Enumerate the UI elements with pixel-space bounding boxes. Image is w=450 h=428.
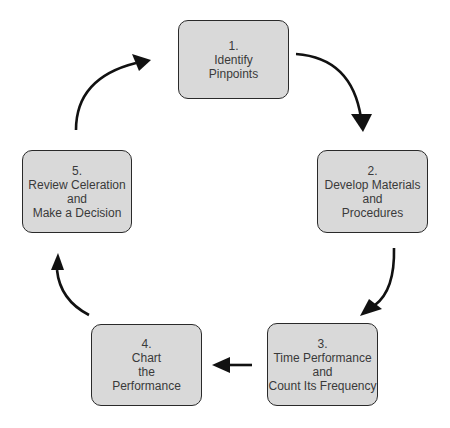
arrow-1-to-2 — [296, 54, 361, 118]
step-4-line-2: the — [138, 365, 155, 379]
step-5-number: 5. — [72, 164, 82, 178]
step-3-line-1: Time Performance — [273, 351, 371, 365]
step-1-line-2: Pinpoints — [209, 67, 258, 81]
step-5-line-1: Review Celeration — [28, 178, 125, 192]
step-2-line-2: and — [362, 192, 382, 206]
step-3-line-3: Count Its Frequency — [268, 379, 376, 393]
step-3-number: 3. — [317, 337, 327, 351]
step-1-line-1: Identify — [214, 53, 253, 67]
step-2-line-1: Develop Materials — [324, 178, 420, 192]
arrowhead-4-to-5-icon — [51, 253, 64, 270]
step-4-number: 4. — [141, 337, 151, 351]
arrow-5-to-1 — [76, 63, 136, 130]
step-3-time-performance: 3. Time Performance and Count Its Freque… — [267, 323, 378, 406]
step-5-line-3: Make a Decision — [33, 206, 122, 220]
step-1-number: 1. — [228, 39, 238, 53]
step-5-line-2: and — [67, 192, 87, 206]
arrowhead-1-to-2-icon — [351, 114, 372, 132]
step-4-line-3: Performance — [112, 379, 181, 393]
step-1-identify-pinpoints: 1. Identify Pinpoints — [178, 20, 289, 99]
step-5-review-celeration: 5. Review Celeration and Make a Decision — [22, 150, 132, 233]
step-4-chart-performance: 4. Chart the Performance — [91, 324, 202, 406]
arrow-4-to-5 — [57, 270, 89, 315]
arrow-2-to-3 — [375, 248, 394, 305]
arrowhead-3-to-4-icon — [212, 357, 230, 373]
step-2-line-3: Procedures — [342, 206, 403, 220]
step-2-number: 2. — [367, 164, 377, 178]
step-4-line-1: Chart — [132, 351, 161, 365]
step-2-develop-materials: 2. Develop Materials and Procedures — [317, 150, 428, 233]
step-3-line-2: and — [312, 365, 332, 379]
